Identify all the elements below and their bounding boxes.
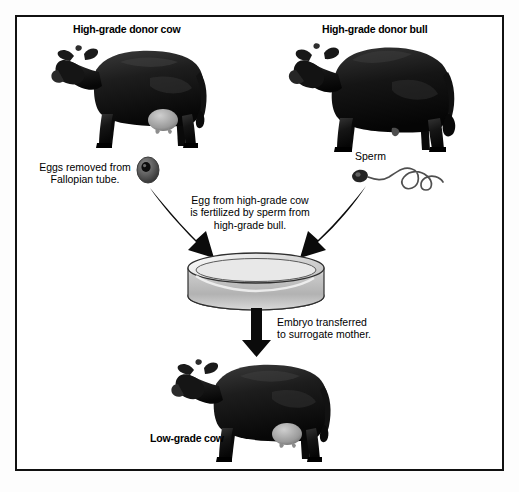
embryo-caption-line-2: to surrogate mother.	[277, 328, 402, 340]
diagram-canvas: High-grade donor cow High-grade donor bu…	[0, 0, 519, 492]
surrogate-cow-label: Low-grade cow	[150, 432, 224, 444]
fertilization-caption-line-3: high-grade bull.	[180, 219, 320, 231]
sperm-label: Sperm	[355, 150, 386, 162]
eggs-caption-line-2: Fallopian tube.	[26, 173, 144, 185]
petri-dish-figure	[188, 253, 324, 310]
sperm-cell-icon	[351, 168, 443, 190]
embryo-transfer-caption: Embryo transferred to surrogate mother.	[277, 316, 402, 341]
dish-to-cow-arrow	[242, 308, 271, 357]
donor-cow-label: High-grade donor cow	[73, 23, 180, 35]
eggs-removed-caption: Eggs removed from Fallopian tube.	[26, 161, 144, 186]
fertilization-caption: Egg from high-grade cow is fertilized by…	[180, 194, 320, 231]
fertilization-caption-line-1: Egg from high-grade cow	[180, 194, 320, 206]
eggs-caption-line-1: Eggs removed from	[26, 161, 144, 173]
donor-bull-label: High-grade donor bull	[322, 23, 427, 35]
donor-bull-figure	[289, 43, 455, 152]
fertilization-caption-line-2: is fertilized by sperm from	[180, 206, 320, 218]
surrogate-cow-figure	[171, 359, 330, 462]
donor-cow-figure	[51, 45, 206, 148]
embryo-caption-line-1: Embryo transferred	[277, 316, 402, 328]
diagram-graphics	[0, 0, 519, 492]
